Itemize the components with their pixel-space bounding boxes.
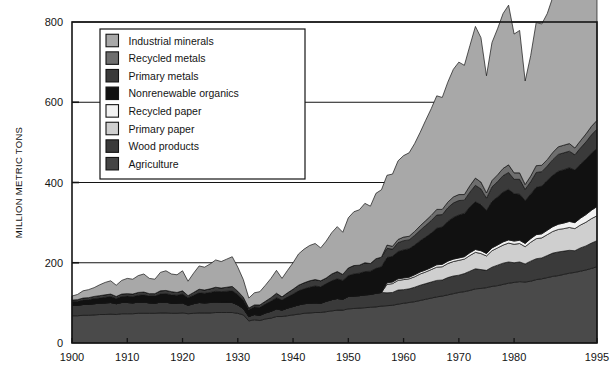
y-tick-label: 0 bbox=[57, 337, 63, 349]
legend-swatch bbox=[106, 140, 119, 153]
legend-swatch bbox=[106, 34, 119, 47]
legend-label: Nonrenewable organics bbox=[129, 87, 239, 99]
legend-label: Industrial minerals bbox=[129, 35, 214, 47]
y-tick-label: 400 bbox=[45, 177, 63, 189]
legend-label: Recycled paper bbox=[129, 105, 202, 117]
legend-swatch bbox=[106, 69, 119, 82]
legend-label: Recycled metals bbox=[129, 52, 206, 64]
legend-label: Agriculture bbox=[129, 158, 179, 170]
legend-label: Primary metals bbox=[129, 70, 199, 82]
y-tick-label: 600 bbox=[45, 96, 63, 108]
legend-item[interactable]: Agriculture bbox=[106, 157, 179, 170]
x-tick-label: 1930 bbox=[226, 351, 250, 363]
x-tick-label: 1900 bbox=[60, 351, 84, 363]
y-tick-label: 800 bbox=[45, 16, 63, 28]
legend: Industrial mineralsRecycled metalsPrimar… bbox=[100, 29, 305, 179]
x-tick-label: 1920 bbox=[170, 351, 194, 363]
x-tick-label: 1940 bbox=[281, 351, 305, 363]
y-tick-label: 200 bbox=[45, 257, 63, 269]
legend-swatch bbox=[106, 52, 119, 65]
legend-swatch bbox=[106, 105, 119, 118]
x-tick-label: 1960 bbox=[391, 351, 415, 363]
y-axis-title: MILLION METRIC TONS bbox=[13, 127, 24, 238]
stacked-area-chart: 0200400600800MILLION METRIC TONS19001910… bbox=[0, 0, 613, 378]
x-tick-label: 1950 bbox=[336, 351, 360, 363]
chart-figure: 0200400600800MILLION METRIC TONS19001910… bbox=[0, 0, 613, 378]
legend-swatch bbox=[106, 157, 119, 170]
x-tick-label: 1910 bbox=[115, 351, 139, 363]
x-tick-label: 1970 bbox=[447, 351, 471, 363]
legend-label: Primary paper bbox=[129, 123, 195, 135]
x-tick-label: 1980 bbox=[502, 351, 526, 363]
legend-label: Wood products bbox=[129, 140, 199, 152]
legend-swatch bbox=[106, 87, 119, 100]
legend-swatch bbox=[106, 122, 119, 135]
x-tick-label: 1995 bbox=[585, 351, 609, 363]
